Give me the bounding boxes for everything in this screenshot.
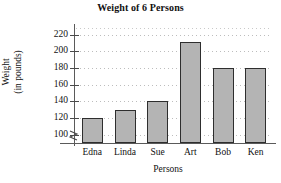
y-axis-tick [70, 68, 79, 69]
y-axis-tick [70, 135, 79, 136]
y-axis-tick [70, 35, 79, 36]
gridline [76, 51, 272, 52]
y-axis-tick-label: 200 [42, 46, 68, 56]
gridline [76, 135, 272, 136]
bar [115, 110, 136, 143]
y-axis-tick-label: 120 [42, 113, 68, 123]
gridline [76, 101, 272, 102]
gridline [76, 35, 272, 36]
y-axis-label-line1: Weight [0, 26, 12, 118]
y-axis-label: Weight (in pounds) [0, 26, 30, 118]
bar-chart-figure: Weight of 6 Persons Weight (in pounds) 1… [0, 0, 281, 183]
x-axis-tick-label: Ken [232, 147, 280, 158]
bar [245, 68, 266, 143]
y-axis-tick-label: 140 [42, 96, 68, 106]
chart-title: Weight of 6 Persons [0, 2, 281, 13]
plot-area [76, 28, 272, 143]
y-axis-tick [70, 101, 79, 102]
gridline [76, 118, 272, 119]
y-axis-tick [70, 118, 79, 119]
y-axis-tick [70, 51, 79, 52]
y-axis-tick-label: 220 [42, 30, 68, 40]
bar [147, 101, 168, 143]
bar [180, 42, 201, 143]
x-axis-spine [60, 143, 276, 144]
y-axis-tick [70, 85, 79, 86]
y-axis-tick-label: 160 [42, 80, 68, 90]
bar [82, 118, 103, 143]
x-axis-label: Persons [60, 164, 276, 174]
gridline [76, 68, 272, 69]
gridline [76, 85, 272, 86]
y-axis-tick-label: 100 [42, 130, 68, 140]
y-axis-label-line2: (in pounds) [12, 26, 24, 118]
y-axis-tick-label: 180 [42, 63, 68, 73]
bar [213, 68, 234, 143]
